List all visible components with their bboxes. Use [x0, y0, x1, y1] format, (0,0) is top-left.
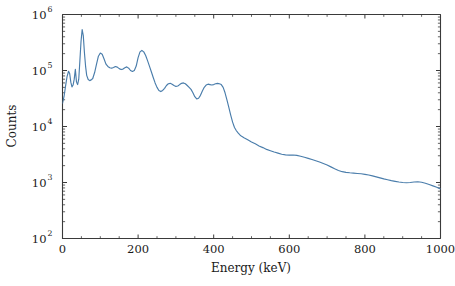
y-tick-label-exponent: 5: [48, 61, 53, 70]
y-tick-label-mantissa: 10: [32, 8, 47, 22]
y-tick-label-exponent: 2: [48, 229, 53, 238]
x-tick-label: 1000: [426, 242, 455, 256]
y-tick-label-mantissa: 10: [32, 120, 47, 134]
x-tick-label: 600: [278, 242, 300, 256]
y-tick-label-mantissa: 10: [32, 176, 47, 190]
y-tick-label-mantissa: 10: [32, 64, 47, 78]
spectrum-figure: 02004006008001000102103104105106 Energy …: [0, 0, 455, 286]
x-tick-label: 400: [203, 242, 225, 256]
y-tick-label-exponent: 6: [48, 5, 53, 14]
y-tick-label-exponent: 3: [48, 173, 53, 182]
y-tick-label-exponent: 4: [48, 117, 53, 126]
spectrum-plot-svg: 02004006008001000102103104105106 Energy …: [0, 0, 455, 286]
x-tick-label: 800: [354, 242, 376, 256]
x-tick-label: 0: [59, 242, 66, 256]
y-tick-label-mantissa: 10: [32, 232, 47, 246]
plot-background: [0, 0, 455, 286]
y-axis-title: Counts: [5, 105, 19, 148]
x-tick-label: 200: [127, 242, 149, 256]
x-axis-title: Energy (keV): [211, 261, 291, 275]
